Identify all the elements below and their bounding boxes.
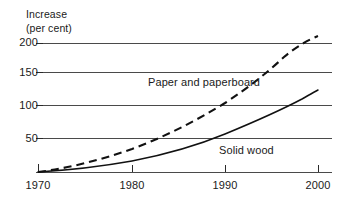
y-axis-tick-label-200: 200	[12, 37, 38, 48]
x-axis-tick-label-1990: 1990	[203, 180, 247, 191]
y-axis-tick-label-50: 50	[12, 133, 38, 144]
series-curve-paper-and-paperboard	[38, 36, 318, 172]
x-axis-tick-label-1980: 1980	[110, 180, 154, 191]
y-axis-tick-label-150: 150	[12, 67, 38, 78]
chart-figure: Increase (per cent) 200 150 100 50 1970 …	[0, 0, 339, 202]
series-label-solid-wood: Solid wood	[219, 145, 274, 156]
series-curve-solid-wood	[38, 90, 318, 172]
x-axis-tick-label-2000: 2000	[296, 180, 339, 191]
series-label-paper-and-paperboard: Paper and paperboard	[148, 77, 260, 88]
y-axis-tick-label-100: 100	[12, 100, 38, 111]
x-axis-tick-label-1970: 1970	[16, 180, 60, 191]
y-axis-title-line2: (per cent)	[26, 23, 72, 34]
y-axis-title-line1: Increase	[26, 9, 67, 20]
